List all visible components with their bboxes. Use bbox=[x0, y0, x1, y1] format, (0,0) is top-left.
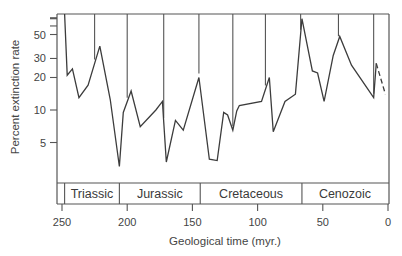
period-label-jurassic: Jurassic bbox=[137, 187, 183, 201]
x-tick-label: 100 bbox=[248, 216, 266, 228]
geological-period-band: TriassicJurassicCretaceousCenozoic bbox=[65, 183, 371, 204]
x-tick-label: 200 bbox=[118, 216, 136, 228]
x-tick-label: 250 bbox=[53, 216, 71, 228]
x-axis-title: Geological time (myr.) bbox=[169, 235, 281, 247]
y-axis-ticks bbox=[50, 18, 57, 143]
y-axis-tick-labels: 510203050 bbox=[34, 29, 46, 149]
extinction-rate-series bbox=[65, 14, 386, 166]
y-tick-label: 50 bbox=[34, 29, 46, 41]
period-label-cretaceous: Cretaceous bbox=[219, 187, 283, 201]
y-tick-label: 30 bbox=[34, 52, 46, 64]
y-tick-label: 10 bbox=[34, 104, 46, 116]
x-tick-label: 0 bbox=[385, 216, 391, 228]
period-label-cenozoic: Cenozoic bbox=[319, 187, 371, 201]
x-tick-label: 150 bbox=[183, 216, 201, 228]
y-axis-title: Percent extinction rate bbox=[9, 40, 21, 154]
x-tick-label: 50 bbox=[317, 216, 329, 228]
extinction-line-dashed bbox=[376, 63, 385, 94]
x-axis-ticks bbox=[62, 204, 388, 211]
x-axis-tick-labels: 250200150100500 bbox=[53, 216, 391, 228]
plot-frame bbox=[57, 14, 389, 204]
extinction-rate-chart: 510203050 250200150100500 TriassicJurass… bbox=[0, 0, 402, 256]
extinction-line bbox=[65, 14, 377, 166]
y-tick-label: 20 bbox=[34, 71, 46, 83]
y-tick-label: 5 bbox=[40, 137, 46, 149]
period-label-triassic: Triassic bbox=[71, 187, 114, 201]
